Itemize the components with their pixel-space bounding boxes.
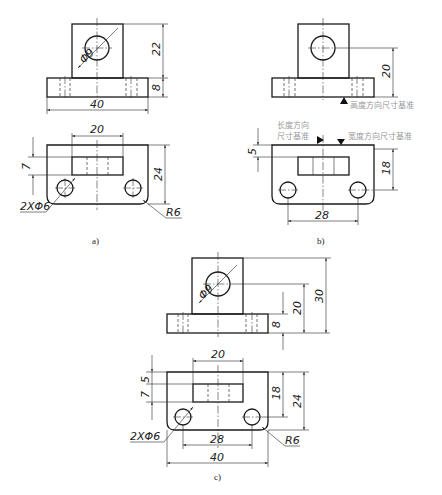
- view-a-front: Φ9 22 8 40: [47, 18, 168, 114]
- diameter-label: Φ9: [196, 282, 216, 302]
- caption-b: b): [317, 236, 325, 246]
- plate-outline: [167, 372, 268, 430]
- upright-outline: [298, 24, 349, 78]
- view-a: Φ9 22 8 40: [20, 18, 182, 246]
- width-datum-triangle-icon: [337, 139, 345, 145]
- radius-label: R6: [285, 434, 300, 447]
- height-datum-label: 高度方向尺寸基准: [350, 100, 414, 110]
- hole-spec-label: 2XΦ6: [130, 430, 160, 443]
- length-datum-label-line1: 长度方向: [277, 120, 309, 130]
- dim-20: 20: [90, 123, 104, 136]
- view-c: Φ9 8 20 30: [130, 252, 331, 482]
- dim-28: 28: [315, 209, 329, 222]
- view-c-front: Φ9 8 20 30: [167, 252, 331, 350]
- base-outline: [47, 78, 148, 97]
- width-datum-label: 宽度方向尺寸基准: [348, 131, 412, 141]
- dim-18: 18: [380, 161, 393, 175]
- dim-40: 40: [90, 98, 104, 111]
- view-b: 20 高度方向尺寸基准 5 18: [246, 18, 414, 246]
- slot-outline: [298, 157, 349, 175]
- dim-24: 24: [152, 167, 165, 181]
- caption-c: c): [214, 472, 221, 482]
- dim-20: 20: [380, 64, 393, 78]
- length-datum-label-line2: 尺寸基准: [277, 131, 309, 141]
- dim-7: 7: [20, 163, 33, 170]
- dim-30: 30: [313, 289, 326, 303]
- radius-leader: [143, 200, 166, 218]
- dim-8: 8: [270, 321, 283, 328]
- base-outline: [167, 314, 268, 333]
- hole-leader: [164, 407, 193, 442]
- dim-7: 7: [139, 391, 152, 398]
- view-c-top: 20 5 7 18 24 28: [130, 348, 309, 467]
- dim-5: 5: [246, 148, 259, 155]
- hole-leader: [46, 178, 75, 212]
- view-b-top: 5 18 28 长度方向 尺寸基准 宽度方向尺寸基准: [246, 120, 412, 225]
- caption-a: a): [92, 236, 99, 246]
- dim-5: 5: [139, 376, 152, 383]
- view-a-top: 20 7 24 2XΦ6 R6: [20, 123, 182, 219]
- engineering-drawing: Φ9 22 8 40: [0, 0, 442, 495]
- dim-8: 8: [150, 84, 163, 91]
- radius-label: R6: [166, 206, 181, 219]
- dim-20: 20: [291, 301, 304, 315]
- dim-22: 22: [150, 42, 163, 56]
- dim-24: 24: [291, 394, 304, 408]
- view-b-front: 20 高度方向尺寸基准: [272, 18, 414, 110]
- diameter-label: Φ9: [77, 46, 97, 66]
- slot-outline: [72, 157, 123, 175]
- datum-triangle-icon: [340, 97, 348, 104]
- dim-40: 40: [210, 451, 224, 464]
- dim-20: 20: [211, 348, 225, 361]
- hole-spec-label: 2XΦ6: [20, 200, 50, 213]
- upright-outline: [72, 24, 123, 78]
- dim-18: 18: [270, 386, 283, 400]
- dim-28: 28: [210, 433, 224, 446]
